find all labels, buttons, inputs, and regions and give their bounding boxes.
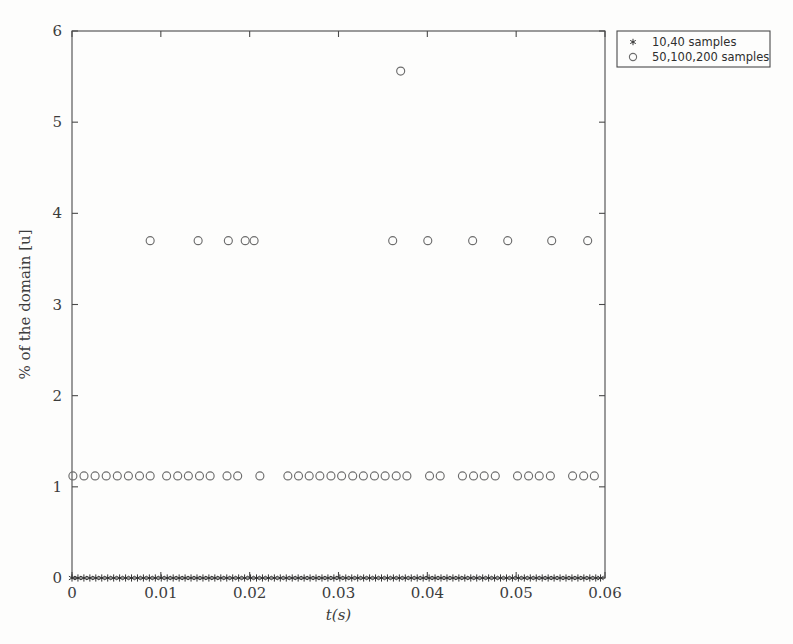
data-point xyxy=(392,472,400,480)
data-point xyxy=(102,472,110,480)
data-point xyxy=(163,472,171,480)
x-tick-label-4: 0.04 xyxy=(411,584,444,602)
data-point xyxy=(458,472,466,480)
data-point xyxy=(113,472,121,480)
y-axis-tick-labels: 0123456 xyxy=(52,22,62,587)
data-point xyxy=(381,472,389,480)
data-point xyxy=(370,472,378,480)
data-point xyxy=(80,472,88,480)
data-point xyxy=(590,472,598,480)
x-tick-label-5: 0.05 xyxy=(499,584,532,602)
x-tick-label-3: 0.03 xyxy=(322,584,355,602)
data-point xyxy=(256,472,264,480)
data-point xyxy=(535,472,543,480)
y-tick-label-2: 2 xyxy=(52,387,62,405)
data-point xyxy=(195,472,203,480)
data-point xyxy=(349,472,357,480)
data-point xyxy=(514,472,522,480)
data-point xyxy=(424,237,432,245)
x-axis-tick-labels: 00.010.020.030.040.050.06 xyxy=(67,584,621,602)
x-tick-label-1: 0.01 xyxy=(144,584,177,602)
data-point xyxy=(223,472,231,480)
data-point xyxy=(305,472,313,480)
data-point xyxy=(580,472,588,480)
x-tick-label-6: 0.06 xyxy=(588,584,621,602)
data-point xyxy=(470,472,478,480)
data-point xyxy=(403,472,411,480)
data-point xyxy=(546,472,554,480)
figure-container: 00.010.020.030.040.050.06 0123456 t(s)% … xyxy=(0,0,793,644)
data-point xyxy=(469,237,477,245)
data-point xyxy=(359,472,367,480)
data-point xyxy=(426,472,434,480)
data-point xyxy=(389,237,397,245)
y-tick-label-0: 0 xyxy=(52,569,62,587)
axes-frame xyxy=(72,31,605,578)
x-axis-title: t(s) xyxy=(326,606,352,624)
legend-label-1: 50,100,200 samples xyxy=(652,50,769,64)
scatter-plot: 00.010.020.030.040.050.06 0123456 t(s)% … xyxy=(0,0,793,644)
data-point xyxy=(295,472,303,480)
data-point xyxy=(316,472,324,480)
y-tick-label-4: 4 xyxy=(52,204,62,222)
data-point xyxy=(194,237,202,245)
y-tick-label-5: 5 xyxy=(52,113,62,131)
x-axis-ticks xyxy=(72,31,605,578)
data-point xyxy=(184,472,192,480)
data-point xyxy=(525,472,533,480)
data-point xyxy=(584,237,592,245)
data-point xyxy=(284,472,292,480)
x-tick-label-0: 0 xyxy=(67,584,77,602)
data-point xyxy=(569,472,577,480)
x-tick-label-2: 0.02 xyxy=(233,584,266,602)
data-point xyxy=(69,472,77,480)
data-point xyxy=(234,472,242,480)
data-point xyxy=(480,472,488,480)
data-point xyxy=(327,472,335,480)
data-point xyxy=(491,472,499,480)
data-point xyxy=(224,237,232,245)
data-point xyxy=(136,472,144,480)
plot-frame xyxy=(72,31,605,578)
data-point xyxy=(124,472,132,480)
data-point xyxy=(91,472,99,480)
series-markers-samples-50-100-200 xyxy=(69,67,598,480)
data-point xyxy=(548,237,556,245)
data-point xyxy=(397,67,405,75)
legend: 10,40 samples50,100,200 samples xyxy=(617,31,770,67)
y-tick-label-3: 3 xyxy=(52,296,62,314)
data-point xyxy=(146,237,154,245)
y-axis-ticks xyxy=(72,31,605,578)
data-point xyxy=(146,472,154,480)
y-tick-label-1: 1 xyxy=(52,478,62,496)
axis-titles: t(s)% of the domain [u] xyxy=(16,229,351,624)
legend-label-0: 10,40 samples xyxy=(652,35,736,49)
y-axis-title: % of the domain [u] xyxy=(16,229,34,379)
data-point xyxy=(206,472,214,480)
data-point xyxy=(241,237,249,245)
data-point xyxy=(174,472,182,480)
data-point xyxy=(250,237,258,245)
data-point xyxy=(436,472,444,480)
y-tick-label-6: 6 xyxy=(52,22,62,40)
data-point xyxy=(338,472,346,480)
data-point xyxy=(504,237,512,245)
